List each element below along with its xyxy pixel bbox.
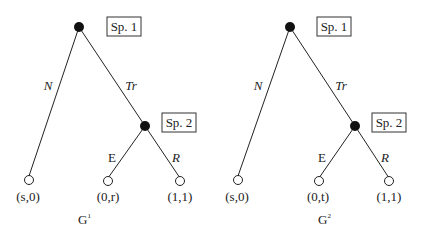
game-tree-1: Sp. 1 Sp. 2 N Tr E R (s,0) (0,r) (1,1) G… [16,17,196,227]
game-title: G1 [78,212,91,227]
game-title: G2 [318,212,331,227]
action-label-n: N [43,78,54,93]
decision-node-player1 [74,22,84,32]
decision-node-player1 [285,22,295,32]
game-trees: Sp. 1 Sp. 2 N Tr E R (s,0) (0,r) (1,1) G… [0,0,423,239]
game-name: G [78,212,87,227]
terminal-node [315,177,324,186]
player1-label: Sp. 1 [321,19,348,34]
terminal-node [25,176,34,185]
edge-tr [290,27,355,126]
terminal-node [176,177,185,186]
decision-node-player2 [140,121,150,131]
action-label-e: E [318,150,326,165]
payoff-r: (1,1) [168,189,193,204]
payoff-n: (s,0) [16,189,39,204]
action-label-tr: Tr [125,78,138,93]
edge-tr [79,27,145,126]
action-label-tr: Tr [335,78,348,93]
terminal-node [234,176,243,185]
payoff-e: (0,t) [307,189,329,204]
payoff-r: (1,1) [377,189,402,204]
player2-label: Sp. 2 [166,115,193,130]
game-superscript: 1 [87,212,91,220]
game-name: G [318,212,327,227]
action-label-r: R [380,150,389,165]
edge-n [238,27,290,176]
action-label-n: N [253,78,264,93]
payoff-e: (0,r) [97,189,120,204]
player2-label: Sp. 2 [376,115,403,130]
payoff-n: (s,0) [225,189,248,204]
game-tree-2: Sp. 1 Sp. 2 N Tr E R (s,0) (0,t) (1,1) G… [225,17,406,227]
action-label-e: E [108,150,116,165]
edge-n [29,27,79,176]
player1-label: Sp. 1 [111,19,138,34]
terminal-node [104,177,113,186]
action-label-r: R [171,150,180,165]
terminal-node [385,177,394,186]
game-superscript: 2 [327,212,331,220]
decision-node-player2 [350,121,360,131]
